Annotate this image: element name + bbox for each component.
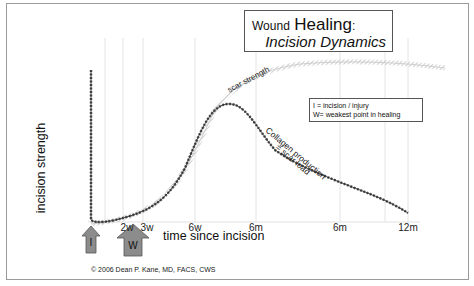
x-tick-12m: 12m <box>398 222 417 233</box>
copyright-text: © 2006 Dean P. Kane, MD, FACS, CWS <box>91 266 215 273</box>
collagen-production-curve <box>91 70 408 222</box>
x-tick-3w: 3w <box>141 222 154 233</box>
x-tick-2w: 2w <box>121 222 134 233</box>
chart-subtitle: Incision Dynamics <box>265 33 386 50</box>
incision-marker-label: I <box>90 237 93 248</box>
chart-title-line1: Wound Healing: <box>252 15 355 35</box>
legend-entry-weakest-point: W= weakest point in healing <box>313 110 422 119</box>
x-tick-6m-a: 6m <box>249 222 263 233</box>
x-tick-6m-b: 6m <box>333 222 347 233</box>
chart-title-box: Wound Healing: Incision Dynamics <box>244 10 393 52</box>
chart-legend: I = incision / injury W= weakest point i… <box>309 98 423 122</box>
weakest-point-marker-label: W <box>128 240 137 251</box>
vertical-gridlines <box>105 38 408 222</box>
chart-plot <box>0 0 474 286</box>
y-axis-label: incision strength <box>34 123 48 213</box>
x-tick-6w: 6w <box>189 222 202 233</box>
legend-entry-incision: I = incision / injury <box>313 101 422 110</box>
